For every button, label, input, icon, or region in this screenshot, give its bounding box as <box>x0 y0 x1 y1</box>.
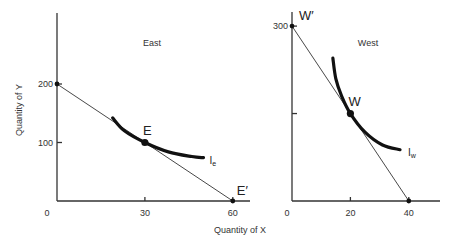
west-indifference-curve <box>333 58 400 150</box>
west-point <box>347 110 354 117</box>
west-panel-title: West <box>358 38 379 48</box>
west-point <box>290 24 295 29</box>
west-point-label: W <box>348 94 361 109</box>
east-x-tick-label: 0 <box>44 208 49 218</box>
east-point <box>141 139 148 146</box>
west-x-tick-label: 40 <box>404 208 414 218</box>
east-y-tick-label: 100 <box>38 138 53 148</box>
east-y-tick-label: 200 <box>38 79 53 89</box>
x-axis-title: Quantity of X <box>214 225 266 235</box>
west-x-tick-label: 0 <box>284 208 289 218</box>
west-point <box>406 199 411 204</box>
east-point <box>55 82 60 87</box>
chart: East Quantity of Y Quantity of X West 03… <box>0 0 454 244</box>
east-panel-title: East <box>143 38 162 48</box>
west-x-tick-label: 20 <box>345 208 355 218</box>
y-axis-title: Quantity of Y <box>14 84 24 136</box>
east-indifference-curve-label: Ie <box>210 155 217 167</box>
west-indifference-curve-subscript: w <box>410 152 417 159</box>
east-x-tick-label: 30 <box>140 208 150 218</box>
east-point-label: E <box>143 123 152 138</box>
east-indifference-curve-subscript: e <box>212 160 216 167</box>
west-indifference-curve-label: Iw <box>408 147 417 159</box>
east-point-label: E′ <box>237 183 249 198</box>
west-y-tick-label: 300 <box>273 21 288 31</box>
east-x-tick-label: 60 <box>228 208 238 218</box>
east-point <box>230 199 235 204</box>
west-point-label: W′ <box>299 8 314 23</box>
